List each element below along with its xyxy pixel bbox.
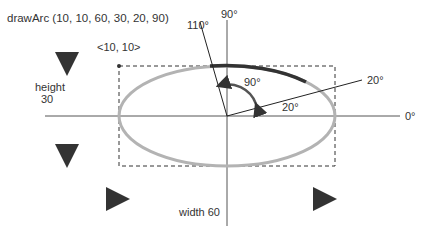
angle-label-110: 110°: [187, 20, 209, 31]
angle-label-90-axis: 90°: [221, 9, 238, 20]
width-label: width 60: [179, 207, 220, 218]
origin-point: [117, 64, 121, 68]
angle-label-20-line: 20°: [367, 75, 384, 86]
start-angle-arc: [256, 108, 257, 116]
diagram-title: drawArc (10, 10, 60, 30, 20, 90): [7, 13, 169, 25]
diagram-canvas: [0, 0, 421, 236]
height-label: height: [35, 82, 65, 93]
angle-label-sweep-90: 90°: [244, 77, 261, 88]
angle-label-0-axis: 0°: [405, 111, 416, 122]
angle-label-20-arc: 20°: [282, 102, 299, 113]
end-angle-line: [200, 22, 227, 116]
origin-label: <10, 10>: [97, 42, 140, 53]
height-value: 30: [41, 94, 53, 105]
